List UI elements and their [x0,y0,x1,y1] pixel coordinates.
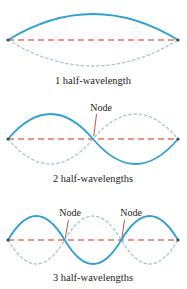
node-label: Node [90,102,112,113]
panel-1-half-wavelength: 1 half-wavelength [6,14,179,86]
node-label: Node [120,207,142,218]
panel-3-half-wavelengths: Node Node 3 half-wavelengths [6,207,179,283]
node-label: Node [59,207,81,218]
standing-wave-figure: 1 half-wavelength Node 2 half-wavelength… [0,0,187,289]
endpoint-dot [176,238,179,241]
standing-wave-svg: 1 half-wavelength Node 2 half-wavelength… [0,0,187,289]
panel-caption: 2 half-wavelengths [53,173,133,184]
endpoint-dot [6,238,9,241]
endpoint-dot [6,38,9,41]
panel-caption: 1 half-wavelength [55,75,132,86]
endpoint-dot [176,137,179,140]
endpoint-dot [176,38,179,41]
panel-2-half-wavelengths: Node 2 half-wavelengths [6,102,179,184]
wave-mirror-curve [8,40,178,66]
wave-solid-curve [8,14,178,40]
node-leader-line [94,114,97,136]
panel-caption: 3 half-wavelengths [53,272,133,283]
endpoint-dot [6,137,9,140]
